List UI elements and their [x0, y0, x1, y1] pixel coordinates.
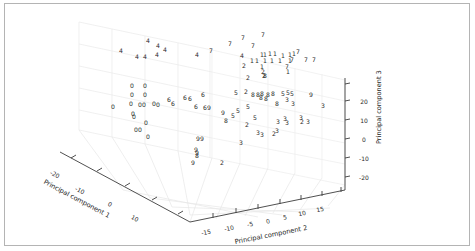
scatter-point-9: 9: [207, 105, 211, 111]
scatter-point-7: 7: [312, 57, 316, 63]
scatter-point-0: 0: [130, 92, 134, 98]
scatter-point-8: 8: [224, 118, 228, 124]
scatter-point-4: 4: [119, 48, 123, 54]
scatter-point-0: 0: [130, 83, 134, 89]
scatter-point-7: 7: [228, 41, 232, 47]
scatter-point-5: 5: [231, 113, 235, 119]
scatter-point-0: 0: [146, 134, 150, 140]
scatter-point-2: 2: [242, 63, 246, 69]
z-tick-label: 10: [360, 117, 368, 124]
scatter-point-0: 0: [111, 104, 115, 110]
scatter-point-6: 6: [183, 95, 187, 101]
y-tick-label: 5: [282, 213, 287, 221]
scatter-point-4: 4: [135, 54, 139, 60]
scatter-point-1: 1: [286, 69, 290, 75]
scatter-point-3: 3: [239, 140, 243, 146]
z-axis-label: Principal component 3: [375, 70, 383, 144]
scatter-point-2: 2: [245, 122, 249, 128]
scatter-point-4: 4: [155, 52, 159, 58]
scatter-point-5: 5: [246, 104, 250, 110]
y-tick-label: -5: [246, 220, 253, 228]
scatter-point-3: 3: [306, 119, 310, 125]
scatter-point-4: 4: [146, 38, 150, 44]
scatter-point-4: 4: [156, 43, 160, 49]
scatter-point-4: 4: [195, 52, 199, 58]
scatter-point-3: 3: [291, 101, 295, 107]
axis-lines: [60, 78, 345, 222]
scatter-point-6: 6: [171, 101, 175, 107]
scatter-point-0: 0: [143, 92, 147, 98]
z-tick-label: 20: [360, 98, 368, 105]
scatter-point-7: 7: [251, 43, 255, 49]
scatter-point-1: 1: [255, 58, 259, 64]
z-tick-label: -20: [359, 174, 369, 181]
scatter-point-1: 1: [278, 58, 282, 64]
scatter-point-2: 2: [244, 89, 248, 95]
scatter-point-7: 7: [304, 57, 308, 63]
figure-3d-scatter-plot: 4444444477777777771111111111111114222280…: [0, 0, 475, 251]
scatter-point-6: 6: [194, 104, 198, 110]
scatter-point-6: 6: [188, 96, 192, 102]
scatter-point-4: 4: [143, 54, 147, 60]
scatter-point-3: 3: [275, 128, 279, 134]
scatter-point-1: 1: [292, 51, 296, 57]
scatter-point-5: 5: [290, 91, 294, 97]
scatter-point-8: 8: [251, 92, 255, 98]
scatter-point-9: 9: [221, 110, 225, 116]
scatter-point-3: 3: [285, 120, 289, 126]
scatter-point-8: 8: [264, 96, 268, 102]
scatter-point-6: 6: [201, 92, 205, 98]
scatter-point-0: 0: [144, 120, 148, 126]
scatter-point-1: 1: [250, 58, 254, 64]
scatter-point-0: 0: [132, 114, 136, 120]
scatter-point-0: 0: [156, 102, 160, 108]
scatter-point-0: 0: [143, 83, 147, 89]
scatter-point-8: 8: [195, 153, 199, 159]
scatter-point-4: 4: [240, 53, 244, 59]
scatter-point-2: 2: [300, 119, 304, 125]
y-tick-label: 15: [316, 205, 325, 213]
scatter-point-8: 8: [263, 73, 267, 79]
plot-canvas: [0, 0, 475, 251]
scatter-point-5: 5: [236, 108, 240, 114]
scatter-point-0: 0: [138, 127, 142, 133]
scatter-point-9: 9: [309, 92, 313, 98]
scatter-point-5: 5: [253, 115, 257, 121]
scatter-point-0: 0: [142, 102, 146, 108]
scatter-point-2: 2: [246, 75, 250, 81]
y-tick-label: 0: [265, 217, 270, 225]
scatter-point-1: 1: [288, 58, 292, 64]
scatter-point-8: 8: [259, 95, 263, 101]
scatter-point-7: 7: [241, 35, 245, 41]
scatter-point-3: 3: [276, 119, 280, 125]
scatter-point-3: 3: [285, 97, 289, 103]
scatter-point-7: 7: [261, 32, 265, 38]
scatter-point-3: 3: [260, 132, 264, 138]
scatter-point-3: 3: [321, 103, 325, 109]
z-axis-ticks: [345, 83, 350, 177]
scatter-point-8: 8: [275, 101, 279, 107]
scatter-point-8: 8: [271, 91, 275, 97]
scatter-point-0: 0: [129, 101, 133, 107]
z-tick-label: 0: [362, 136, 366, 143]
scatter-point-1: 1: [270, 58, 274, 64]
z-tick-label: -10: [359, 155, 369, 162]
y-tick-label: 10: [298, 209, 307, 217]
scatter-point-5: 5: [234, 90, 238, 96]
scatter-point-7: 7: [209, 48, 213, 54]
scatter-point-7: 7: [296, 49, 300, 55]
scatter-point-9: 9: [200, 136, 204, 142]
scatter-point-4: 4: [163, 47, 167, 53]
scatter-point-9: 9: [191, 160, 195, 166]
scatter-point-2: 2: [220, 160, 224, 166]
